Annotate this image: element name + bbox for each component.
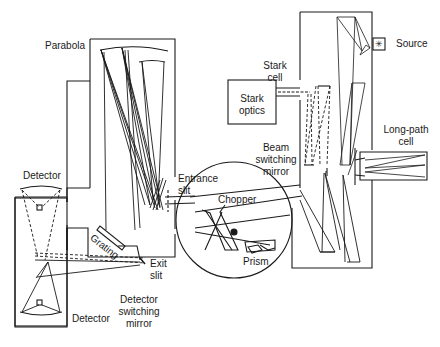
source-box-housing <box>292 12 372 268</box>
optical-schematic: ✳ <box>0 0 440 347</box>
label-stark-cell-1: Stark <box>262 60 288 71</box>
stark-rays <box>305 86 330 165</box>
label-stark-optics-2: optics <box>232 105 272 116</box>
detector-bottom-element <box>37 300 42 305</box>
label-long-path-1: Long-path <box>378 124 434 135</box>
spectrometer-diagram: ✳ Parabola Source Stark c <box>0 0 440 347</box>
label-exit-slit-1: Exit <box>150 258 167 269</box>
label-beam-switching-2: switching <box>252 154 300 165</box>
parabola-mirror <box>100 47 168 51</box>
label-detector-bottom: Detector <box>72 313 110 324</box>
label-parabola: Parabola <box>45 40 85 51</box>
label-long-path-2: cell <box>378 136 434 147</box>
label-beam-switching-3: mirror <box>252 166 300 177</box>
label-prism: Prism <box>243 256 269 267</box>
label-detector-top: Detector <box>23 170 61 181</box>
label-entrance-slit-1: Entrance <box>178 173 218 184</box>
label-beam-switching-1: Beam <box>252 142 300 153</box>
monochromator-housing <box>67 39 175 257</box>
label-stark-optics-1: Stark <box>232 93 272 104</box>
svg-text:✳: ✳ <box>375 39 383 49</box>
lower-rays <box>300 173 360 262</box>
label-detector-switching-2: switching <box>114 306 164 317</box>
source-rays <box>337 17 370 175</box>
detector-top-rays <box>22 190 145 263</box>
monochromator-rays <box>101 48 166 230</box>
label-source: Source <box>396 38 428 49</box>
detector-mirror-top <box>20 186 62 189</box>
label-chopper: Chopper <box>218 194 256 205</box>
label-exit-slit-2: slit <box>150 270 162 281</box>
detector-mirror-bottom <box>20 312 62 315</box>
label-detector-switching-3: mirror <box>114 318 164 329</box>
chopper-hub <box>231 229 237 235</box>
small-mirror <box>139 61 165 63</box>
label-entrance-slit-2: slit <box>178 185 190 196</box>
label-detector-switching-1: Detector <box>114 294 164 305</box>
label-stark-cell-2: cell <box>262 72 288 83</box>
detector-housing <box>15 81 90 327</box>
